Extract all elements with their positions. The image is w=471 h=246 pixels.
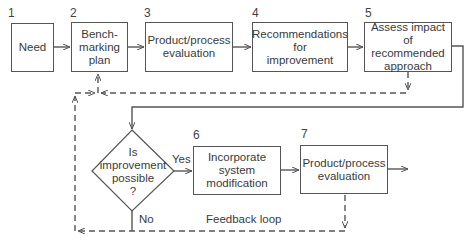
decision-text: Is improvement possible ? bbox=[92, 146, 174, 198]
step-number-6: 6 bbox=[193, 128, 200, 142]
step-number-5: 5 bbox=[365, 6, 372, 20]
step-assess-impact: Assess impact of recommended approach bbox=[364, 22, 452, 72]
no-label: No bbox=[139, 213, 154, 225]
step-number-2: 2 bbox=[70, 6, 77, 20]
yes-label: Yes bbox=[172, 153, 191, 165]
step-number-3: 3 bbox=[144, 6, 151, 20]
step-recommendations: Recommendations for improvement bbox=[252, 22, 348, 72]
step-number-4: 4 bbox=[252, 6, 259, 20]
step-benchmarking-plan: Bench- marking plan bbox=[71, 22, 128, 72]
step-product-evaluation: Product/process evaluation bbox=[145, 22, 233, 72]
step-product-evaluation-2: Product/process evaluation bbox=[300, 145, 388, 194]
step-number-7: 7 bbox=[301, 127, 308, 141]
step-number-1: 1 bbox=[8, 6, 15, 20]
benchmarking-flowchart: 1 Need 2 Bench- marking plan 3 Product/p… bbox=[0, 0, 471, 246]
step-need: Need bbox=[11, 23, 54, 72]
step-incorporate-modification: Incorporate system modification bbox=[193, 146, 281, 195]
feedback-loop-label: Feedback loop bbox=[206, 213, 281, 225]
